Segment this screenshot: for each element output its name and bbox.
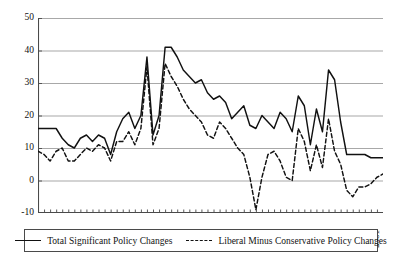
y-axis-label-50: 50 (4, 13, 34, 23)
legend-key-solid (15, 240, 41, 241)
legend-item-1: Liberal Minus Conservative Policy Change… (186, 236, 386, 246)
plot-svg (38, 18, 383, 213)
series-line-0 (38, 47, 383, 158)
legend-label-0: Total Significant Policy Changes (47, 236, 172, 246)
legend-key-dashed (186, 240, 212, 241)
series-line-1 (38, 64, 383, 210)
legend-item-0: Total Significant Policy Changes (15, 236, 172, 246)
y-axis-label-30: 30 (4, 78, 34, 88)
y-axis-label-40: 40 (4, 46, 34, 56)
y-axis-label-0: 0 (4, 176, 34, 186)
plot-area (38, 18, 383, 213)
y-axis-label-10: 10 (4, 143, 34, 153)
y-axis-labels: 50403020100-10 (0, 0, 34, 256)
chart-legend: Total Significant Policy ChangesLiberal … (24, 229, 378, 252)
y-axis-label--10: -10 (4, 208, 34, 218)
chart-container: 50403020100-10 1945194919531957196119651… (0, 0, 399, 256)
y-axis-label-20: 20 (4, 111, 34, 121)
legend-label-1: Liberal Minus Conservative Policy Change… (218, 236, 386, 246)
